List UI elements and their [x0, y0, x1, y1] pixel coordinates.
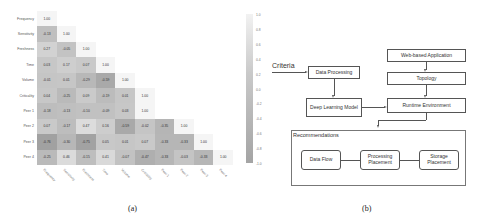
- col-label: Peer 2: [179, 168, 189, 178]
- colorbar-tick: 0.2: [256, 73, 261, 77]
- heatmap-cell: -0.01: [37, 73, 57, 88]
- heatmap-cell: -0.35: [155, 119, 175, 134]
- criteria-label: Criteria: [272, 62, 295, 69]
- row-label: Peer 4: [23, 155, 34, 159]
- col-label: Peer 4: [219, 168, 229, 178]
- colorbar-tick: -0.8: [256, 147, 262, 151]
- heatmap-cell: 0.07: [135, 134, 155, 149]
- heatmap-cell: 0.01: [115, 134, 135, 149]
- connector: [426, 113, 427, 120]
- heatmap-cell: -0.59: [96, 73, 116, 88]
- col-label: Peer 3: [199, 168, 209, 178]
- heatmap-cell: -0.47: [135, 150, 155, 165]
- colorbar-tick: -0.4: [256, 117, 262, 121]
- heatmap-cell: 1.00: [213, 150, 233, 165]
- row-label: Peer 1: [23, 109, 34, 113]
- connector: [341, 160, 360, 161]
- heatmap-cell: -0.15: [76, 150, 96, 165]
- row-label: Peer 3: [23, 140, 34, 144]
- heatmap-cell: 0.03: [115, 103, 135, 118]
- colorbar-tick: -0.6: [256, 132, 262, 136]
- heatmap-cell: -0.33: [155, 134, 175, 149]
- heatmap-cell: 0.41: [96, 150, 116, 165]
- storage-placement-box: Storage Placement: [419, 150, 459, 170]
- heatmap-cell: 1.00: [96, 57, 116, 72]
- heatmap-cell: 1.00: [135, 88, 155, 103]
- colorbar: [246, 14, 253, 163]
- heatmap-cell: 1.00: [174, 119, 194, 134]
- connector: [362, 107, 385, 108]
- heatmap-cell: 0.17: [57, 57, 77, 72]
- col-label: Freshness: [81, 168, 95, 182]
- correlation-heatmap: Frequency1.00Sensitivity-0.131.00Freshne…: [0, 0, 270, 200]
- colorbar-tick: 0.4: [256, 58, 261, 62]
- colorbar-tick: 0.0: [256, 88, 261, 92]
- col-label: Sensitivity: [62, 168, 76, 182]
- col-label: Time: [101, 168, 109, 176]
- heatmap-cell: -0.25: [57, 88, 77, 103]
- heatmap-cell: -0.09: [96, 103, 116, 118]
- colorbar-tick: 0.6: [256, 43, 261, 47]
- criteria-line: [272, 72, 306, 73]
- heatmap-cell: 0.46: [57, 150, 77, 165]
- row-label: Sensitivity: [18, 32, 34, 36]
- heatmap-cell: -0.25: [37, 150, 57, 165]
- recommendations-title: Recommendations: [293, 132, 339, 138]
- row-label: Volume: [22, 78, 34, 82]
- row-label: Time: [26, 63, 34, 67]
- heatmap-cell: 1.00: [37, 11, 57, 26]
- heatmap-cell: 0.03: [37, 57, 57, 72]
- heatmap-cell: -0.05: [57, 42, 77, 57]
- heatmap-cell: -0.76: [37, 134, 57, 149]
- heatmap-cell: -0.19: [96, 88, 116, 103]
- connector: [334, 79, 335, 96]
- connector: [400, 160, 419, 161]
- row-label: Freshness: [17, 47, 34, 51]
- connector: [378, 120, 426, 121]
- row-label: Frequency: [17, 17, 34, 21]
- heatmap-cell: 1.00: [57, 26, 77, 41]
- colorbar-tick: -1.0: [256, 162, 262, 166]
- heatmap-cell: -0.29: [76, 73, 96, 88]
- heatmap-cell: 0.04: [37, 88, 57, 103]
- heatmap-cell: -0.33: [174, 134, 194, 149]
- heatmap-cell: 1.00: [194, 134, 214, 149]
- heatmap-cell: -0.33: [194, 150, 214, 165]
- row-label: Peer 2: [23, 124, 34, 128]
- topology-box: Topology: [387, 72, 466, 85]
- heatmap-cell: -0.13: [57, 103, 77, 118]
- runtime-box: Runtime Environment: [387, 98, 466, 113]
- data-flow-box: Data Flow: [301, 150, 341, 170]
- heatmap-cell: 0.27: [37, 42, 57, 57]
- heatmap-cell: 1.00: [76, 42, 96, 57]
- heatmap-cell: -0.75: [76, 134, 96, 149]
- colorbar-tick: 1.0: [256, 13, 261, 17]
- heatmap-cell: 0.01: [57, 73, 77, 88]
- heatmap-cell: -0.03: [174, 150, 194, 165]
- heatmap-cell: -0.18: [37, 103, 57, 118]
- row-label: Criticality: [19, 94, 34, 98]
- arrow-icon: [377, 125, 379, 128]
- heatmap-cell: -0.30: [57, 134, 77, 149]
- heatmap-cell: 0.07: [76, 57, 96, 72]
- heatmap-cell: -0.02: [135, 119, 155, 134]
- heatmap-cell: 0.05: [96, 134, 116, 149]
- heatmap-cell: -0.59: [115, 119, 135, 134]
- colorbar-tick: 0.8: [256, 28, 261, 32]
- col-label: Peer 1: [160, 168, 170, 178]
- heatmap-cell: 1.00: [115, 73, 135, 88]
- heatmap-cell: 0.01: [115, 88, 135, 103]
- web-app-box: Web-based Application: [387, 49, 466, 62]
- heatmap-cell: 1.00: [135, 103, 155, 118]
- caption-a: (a): [128, 204, 137, 213]
- heatmap-cell: -0.33: [155, 150, 175, 165]
- heatmap-cell: -0.13: [37, 26, 57, 41]
- heatmap-cell: 0.47: [76, 119, 96, 134]
- heatmap-cell: -0.07: [115, 150, 135, 165]
- heatmap-cell: -0.17: [57, 119, 77, 134]
- col-label: Frequency: [42, 168, 56, 182]
- heatmap-cell: 0.09: [76, 88, 96, 103]
- colorbar-tick: -0.2: [256, 102, 262, 106]
- deep-learning-box: Deep Learning Model: [306, 98, 362, 117]
- heatmap-cell: -0.10: [76, 103, 96, 118]
